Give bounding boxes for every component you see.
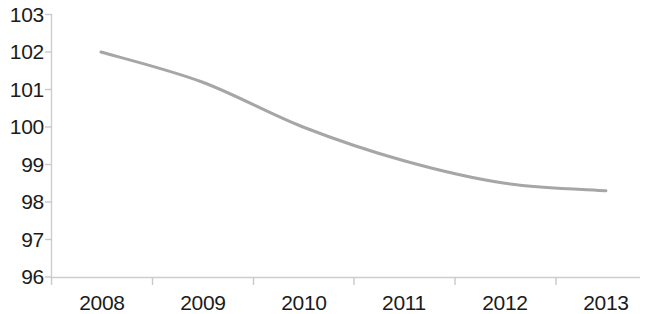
x-axis-label-group: 2008 2009 2010 2011 2012 2013 (0, 0, 652, 314)
x-axis-tick-label: 2011 (359, 292, 449, 313)
x-axis-tick-label: 2008 (57, 292, 147, 313)
x-axis-tick-label: 2013 (561, 292, 651, 313)
x-axis-tick-label: 2010 (259, 292, 349, 313)
x-axis-tick-label: 2009 (158, 292, 248, 313)
line-chart: 103 102 101 100 99 98 97 96 2008 2009 20… (0, 0, 652, 314)
x-axis-tick-label: 2012 (460, 292, 550, 313)
